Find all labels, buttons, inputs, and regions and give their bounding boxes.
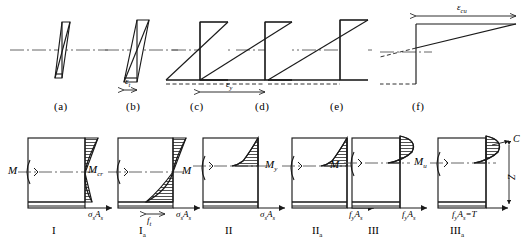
stage-subscript: a <box>461 231 464 239</box>
epsilon-subscript: y <box>230 84 233 91</box>
strain-label-epsilon-y: εy <box>226 79 232 91</box>
moment-subscript: y <box>274 165 277 173</box>
stage-subscript: a <box>319 231 322 239</box>
resultant-label-stage-3: fyAs <box>402 209 415 221</box>
diagram-canvas <box>0 0 526 242</box>
area-subscript: s <box>188 214 191 221</box>
area-subscript: s <box>100 214 103 221</box>
panel-letter-d: (d) <box>255 100 269 112</box>
resultant-label-stage-1a: σsAs <box>176 209 191 221</box>
moment-label-stage-1a-right: M <box>182 164 191 176</box>
area-subscript: s <box>272 214 275 221</box>
panel-letter-f: (f) <box>412 100 425 112</box>
strain-diagram-a <box>10 22 108 78</box>
resultant-label-stage-1: σsAs <box>88 209 103 221</box>
moment-subscript: cr <box>97 170 103 178</box>
moment-label-stage-2-right: My <box>265 158 277 173</box>
f-subscript: t <box>150 220 152 227</box>
epsilon-subscript: cu <box>461 7 467 14</box>
stage-label-1a: Ia <box>139 224 146 239</box>
moment-symbol: M <box>265 158 274 170</box>
compression-force-label: C <box>513 133 520 144</box>
stage-subscript: a <box>143 231 146 239</box>
strain-label-epsilon-t: εt <box>125 76 130 88</box>
epsilon-subscript: t <box>129 81 131 88</box>
resultant-label-stage-2: σsAs <box>260 209 275 221</box>
stage-label-2: II <box>225 224 232 236</box>
moment-symbol: M <box>88 163 97 175</box>
stage-label-3: III <box>368 224 379 236</box>
strain-diagram-c <box>166 22 232 84</box>
stress-diagram-stage-3 <box>344 136 427 208</box>
tension-force-label: =T <box>465 209 476 219</box>
moment-label-stage-2a-right: M <box>330 158 339 170</box>
stress-diagram-stage-3a <box>430 136 509 208</box>
moment-subscript: u <box>423 162 427 170</box>
panel-letter-a: (a) <box>54 100 68 112</box>
resultant-label-stage-2a: fyAs <box>349 209 362 221</box>
stress-diagram-stage-1a <box>108 138 200 214</box>
stage-label-2a: IIa <box>312 224 322 239</box>
area-subscript: s <box>413 214 416 221</box>
resultant-label-stage-3a: fyAs=T <box>452 209 477 221</box>
moment-label-stage-1-right: Mcr <box>88 163 103 178</box>
strain-diagram-f <box>380 16 516 84</box>
stage-numeral: III <box>450 224 461 236</box>
top-row-strain-diagrams <box>10 16 516 92</box>
strain-label-epsilon-cu: εcu <box>457 2 467 14</box>
moment-label-stage-1: M <box>8 164 17 176</box>
moment-label-stage-3-right: Mu <box>414 155 427 170</box>
stage-label-1: I <box>52 224 56 236</box>
moment-symbol: M <box>414 155 423 167</box>
stage-label-3a: IIIa <box>450 224 464 239</box>
panel-letter-b: (b) <box>126 100 140 112</box>
lever-arm-label: Z <box>506 174 517 180</box>
figure-beam-stages: (a) (b) (c) (d) (e) (f) εt εy εcu M Mcr … <box>0 0 526 242</box>
area-subscript: s <box>360 214 363 221</box>
tension-strength-label-ft: ft <box>147 215 151 227</box>
panel-letter-e: (e) <box>330 100 344 112</box>
panel-letter-c: (c) <box>190 100 204 112</box>
